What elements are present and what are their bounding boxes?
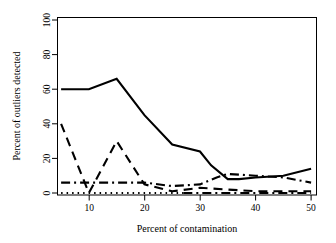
y-axis-title: Percent of outliers detected — [11, 51, 22, 160]
x-tick-label: 40 — [251, 203, 261, 213]
y-tick-label: 0 — [42, 190, 52, 195]
x-tick-label: 20 — [140, 203, 150, 213]
x-tick-label: 30 — [195, 203, 205, 213]
y-tick-label: 40 — [42, 119, 52, 129]
chart-container: 100 80 60 40 20 0 10 20 30 40 50 Percent… — [0, 0, 336, 243]
x-axis-title: Percent of contamination — [137, 223, 238, 234]
y-tick-label: 100 — [42, 13, 52, 28]
y-tick-label: 80 — [42, 50, 52, 60]
y-tick-label: 60 — [42, 84, 52, 94]
x-tick-label: 10 — [84, 203, 94, 213]
x-tick-label: 50 — [306, 203, 316, 213]
line-chart: 100 80 60 40 20 0 10 20 30 40 50 Percent… — [0, 0, 336, 243]
y-tick-label: 20 — [42, 153, 52, 163]
